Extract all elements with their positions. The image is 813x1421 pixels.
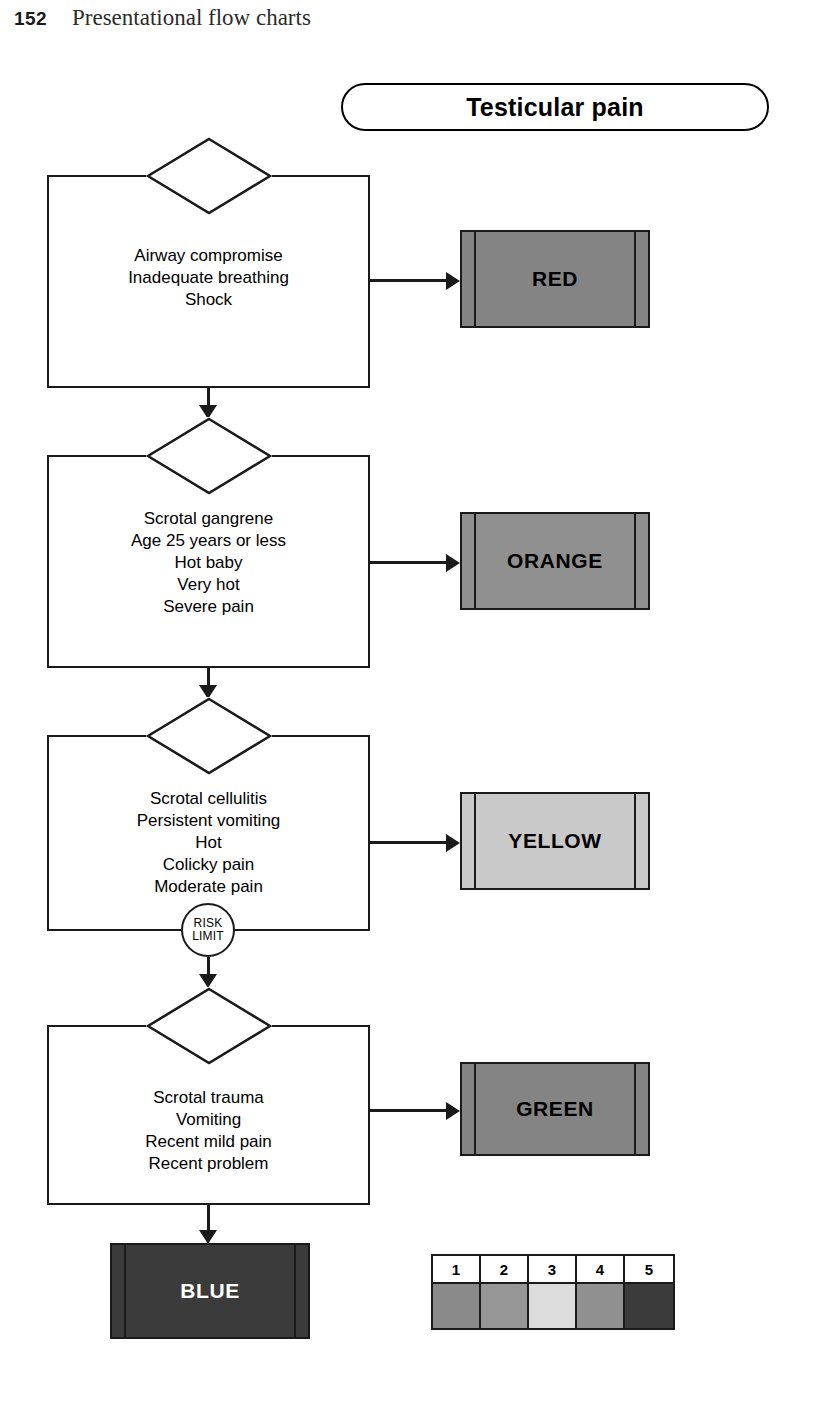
discriminator-text-green: Scrotal trauma Vomiting Recent mild pain… [47,1087,370,1175]
priority-block-red: RED [460,230,650,328]
priority-block-yellow: YELLOW [460,792,650,890]
connector-green [370,1109,448,1112]
block-divider-left-yellow [474,794,476,888]
block-divider-right-yellow [634,794,636,888]
legend-number-cell: 3 [529,1256,577,1284]
block-divider-left-green [474,1064,476,1154]
risk-limit-line-2: LIMIT [192,930,224,943]
page-header: 152 Presentational flow charts [0,0,813,48]
block-divider-right-green [634,1064,636,1154]
risk-limit-badge: RISK LIMIT [181,903,235,957]
block-divider-left-blue [124,1245,126,1337]
priority-block-blue: BLUE [110,1243,310,1339]
block-divider-right-red [634,232,636,326]
connector-arrowhead-yellow-to-green [199,974,217,988]
priority-label-green: GREEN [516,1097,594,1121]
connector-arrowhead-orange [446,554,460,572]
priority-label-blue: BLUE [180,1279,240,1303]
connector-red [370,279,448,282]
chart-title-pill: Testicular pain [341,83,769,131]
legend-swatch-cell [481,1284,529,1328]
legend-number-cell: 5 [625,1256,673,1284]
connector-orange [370,561,448,564]
running-head: Presentational flow charts [72,5,311,31]
priority-label-orange: ORANGE [507,549,603,573]
block-divider-right-blue [294,1245,296,1337]
priority-label-yellow: YELLOW [508,829,601,853]
priority-block-orange: ORANGE [460,512,650,610]
priority-block-green: GREEN [460,1062,650,1156]
legend-number-cell: 2 [481,1256,529,1284]
discriminator-text-yellow: Scrotal cellulitis Persistent vomiting H… [47,788,370,898]
legend-number-cell: 1 [433,1256,481,1284]
decision-diamond-yellow [146,697,272,775]
discriminator-text-red: Airway compromise Inadequate breathing S… [47,245,370,311]
priority-label-red: RED [532,267,578,291]
flow-chart-page: 152 Presentational flow charts Testicula… [0,0,813,1421]
legend-swatch-cell [529,1284,577,1328]
legend-number-row: 1 2 3 4 5 [433,1256,673,1284]
page-number: 152 [14,8,47,30]
connector-yellow [370,841,448,844]
chart-title-label: Testicular pain [466,93,644,122]
legend-swatch-cell [433,1284,481,1328]
legend-number-cell: 4 [577,1256,625,1284]
decision-diamond-green [146,987,272,1065]
priority-key-legend: 1 2 3 4 5 [431,1254,675,1330]
block-divider-left-red [474,232,476,326]
legend-swatch-cell [577,1284,625,1328]
connector-arrowhead-green-to-blue [199,1230,217,1244]
legend-swatch-cell [625,1284,673,1328]
block-divider-right-orange [634,514,636,608]
discriminator-text-orange: Scrotal gangrene Age 25 years or less Ho… [47,508,370,618]
decision-diamond-red [146,137,272,215]
legend-swatch-row [433,1284,673,1328]
connector-arrowhead-green [446,1102,460,1120]
connector-arrowhead-yellow [446,834,460,852]
block-divider-left-orange [474,514,476,608]
decision-diamond-orange [146,417,272,495]
connector-arrowhead-red [446,272,460,290]
